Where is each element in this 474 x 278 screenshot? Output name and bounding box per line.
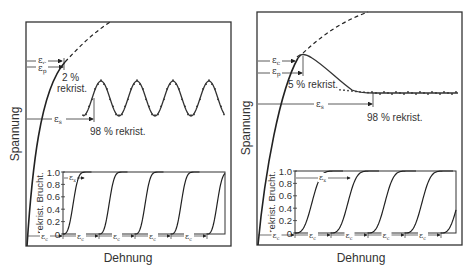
data-point [217, 98, 219, 100]
inset-ytick-label: 0.6 [47, 191, 60, 202]
data-point [85, 114, 87, 116]
data-point [399, 92, 401, 94]
data-point [435, 92, 437, 94]
data-point [451, 93, 453, 95]
left-panel: Spannung Dehnung εc εp 2 % rekrist. εs 9… [8, 22, 231, 265]
data-point [339, 89, 341, 91]
data-point [202, 88, 204, 90]
data-point [184, 106, 186, 108]
data-point [139, 83, 141, 85]
data-point [220, 106, 222, 108]
data-point [118, 114, 120, 116]
right-dashed-workhardening-curve [298, 12, 368, 58]
data-point [157, 114, 159, 116]
data-point [415, 93, 417, 95]
inset-ytick-label: 0.2 [47, 216, 60, 227]
data-point [187, 114, 189, 116]
left-oscillating-flow-curve [83, 81, 224, 116]
data-point [193, 114, 195, 116]
data-point [88, 106, 90, 108]
data-point [154, 114, 156, 116]
left-data-points [82, 79, 225, 116]
data-point [109, 98, 111, 100]
data-point [205, 83, 207, 85]
data-point [169, 83, 171, 85]
left-ylabel: Spannung [8, 107, 22, 162]
data-point [112, 106, 114, 108]
inset-ytick-label: 0.8 [279, 178, 292, 189]
left-inset-ylabel: rekrist. Brucht. [34, 172, 45, 233]
data-point [127, 98, 129, 100]
data-point [375, 92, 377, 94]
data-point [181, 98, 183, 100]
data-point [151, 114, 153, 116]
data-point [142, 88, 144, 90]
data-point [124, 106, 126, 108]
inset-ytick-label: 0.2 [279, 215, 292, 226]
data-point [91, 98, 93, 100]
data-point [196, 106, 198, 108]
data-point [403, 93, 405, 95]
inset-ytick-label: 1.0 [279, 166, 292, 177]
data-point [148, 106, 150, 108]
data-point [455, 91, 457, 93]
right-xlabel: Dehnung [337, 251, 386, 265]
data-point [172, 79, 174, 81]
data-point [82, 114, 84, 116]
inset-ytick-label: 0 [55, 229, 60, 240]
data-point [423, 92, 425, 94]
right-panel: Spannung Dehnung εc εp 5 % rekrist. εs 9… [239, 12, 462, 265]
data-point [391, 93, 393, 95]
left-xlabel: Dehnung [104, 251, 153, 265]
data-point [379, 93, 381, 95]
data-point [223, 114, 225, 116]
inset-ytick-label: 0 [287, 228, 292, 239]
data-point [133, 83, 135, 85]
data-point [347, 90, 349, 92]
data-point [100, 79, 102, 81]
data-point [427, 93, 429, 95]
data-point [214, 88, 216, 90]
figure: Spannung Dehnung εc εp 2 % rekrist. εs 9… [0, 0, 474, 278]
data-point [407, 91, 409, 93]
data-point [136, 79, 138, 81]
data-point [163, 98, 165, 100]
left-end-label: 98 % rekrist. [90, 126, 146, 137]
data-point [355, 91, 357, 93]
right-end-label: 98 % rekrist. [367, 112, 423, 123]
left-inset-frame [63, 172, 225, 234]
data-point [351, 90, 353, 92]
inset-ytick-label: 0.8 [47, 179, 60, 190]
data-point [94, 88, 96, 90]
left-dashed-workhardening-curve [65, 22, 110, 62]
data-point [447, 92, 449, 94]
data-point [395, 91, 397, 93]
right-inset: 1.00.80.60.40.20 rekrist. Brucht. εx εcε… [258, 166, 456, 242]
data-point [387, 92, 389, 94]
right-ylabel: Spannung [239, 101, 253, 156]
data-point [208, 79, 210, 81]
inset-ytick-label: 0.6 [279, 190, 292, 201]
right-start-label: 5 % rekrist. [288, 79, 338, 90]
data-point [443, 91, 445, 93]
data-point [130, 88, 132, 90]
data-point [103, 83, 105, 85]
data-point [166, 88, 168, 90]
data-point [411, 92, 413, 94]
data-point [175, 83, 177, 85]
right-inset-ylabel: rekrist. Brucht. [266, 171, 277, 232]
data-point [439, 93, 441, 95]
data-point [199, 98, 201, 100]
data-point [190, 114, 192, 116]
data-point [97, 83, 99, 85]
data-point [121, 114, 123, 116]
inset-ytick-label: 1.0 [47, 167, 60, 178]
inset-ytick-label: 0.4 [47, 204, 60, 215]
data-point [363, 91, 365, 93]
left-start-label: 2 % [62, 72, 79, 83]
data-point [211, 83, 213, 85]
left-inset: 1.00.80.60.40.20 rekrist. Brucht. εx εcε… [27, 167, 225, 243]
data-point [371, 91, 373, 93]
data-point [178, 88, 180, 90]
data-point [115, 114, 117, 116]
